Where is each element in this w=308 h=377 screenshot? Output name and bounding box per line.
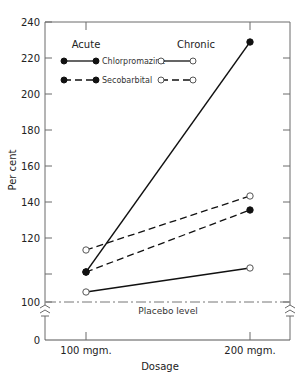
y-tick-label-140: 140 — [21, 197, 40, 208]
legend-marker-filled-circle — [61, 77, 67, 83]
data-point — [83, 247, 89, 253]
line-chart: 240 220 200 180 160 140 120 100 0 Per ce… — [0, 0, 308, 377]
legend-marker-open-circle — [158, 58, 164, 64]
legend-marker-filled-circle — [61, 58, 67, 64]
y-tick-label-200: 200 — [21, 89, 40, 100]
y-tick-label-120: 120 — [21, 233, 40, 244]
legend-group-header-chronic: Chronic — [177, 39, 215, 50]
y-axis-break-right — [285, 305, 295, 340]
legend-marker-open-circle — [190, 77, 196, 83]
legend-group-header-acute: Acute — [72, 39, 101, 50]
data-point — [247, 39, 253, 45]
data-point — [247, 193, 253, 199]
data-point — [247, 207, 253, 213]
series-chronic-chlorpromazine — [83, 265, 253, 295]
data-point — [247, 265, 253, 271]
legend-marker-open-circle — [158, 77, 164, 83]
legend-marker-open-circle — [190, 58, 196, 64]
x-tick-label-200mgm: 200 mgm. — [224, 345, 275, 356]
placebo-level-label: Placebo level — [138, 306, 197, 316]
legend-marker-filled-circle — [93, 77, 99, 83]
y-axis-ticks — [45, 22, 290, 302]
legend-item-secobarbital: Secobarbital — [61, 76, 196, 85]
y-axis-title: Per cent — [7, 149, 18, 190]
x-axis-title: Dosage — [141, 361, 179, 372]
x-axis-ticks — [86, 22, 250, 340]
chart-legend: Acute Chronic Chlorpromazine Secobarbita… — [61, 39, 215, 85]
legend-marker-filled-circle — [93, 58, 99, 64]
x-tick-label-100mgm: 100 mgm. — [60, 345, 111, 356]
legend-item-chlorpromazine: Chlorpromazine — [61, 57, 196, 66]
y-tick-label-240: 240 — [21, 17, 40, 28]
legend-label-secobarbital: Secobarbital — [102, 76, 152, 85]
series-chronic-secobarbital — [83, 193, 253, 253]
y-tick-label-100: 100 — [21, 297, 40, 308]
y-tick-label-180: 180 — [21, 125, 40, 136]
y-axis-break-left — [40, 305, 50, 340]
y-tick-label-220: 220 — [21, 53, 40, 64]
y-tick-label-160: 160 — [21, 161, 40, 172]
data-point — [83, 269, 89, 275]
legend-label-chlorpromazine: Chlorpromazine — [102, 57, 165, 66]
series-acute-chlorpromazine — [83, 39, 253, 275]
chart-container: 240 220 200 180 160 140 120 100 0 Per ce… — [0, 0, 308, 377]
y-tick-label-zero: 0 — [34, 335, 40, 346]
data-point — [83, 289, 89, 295]
